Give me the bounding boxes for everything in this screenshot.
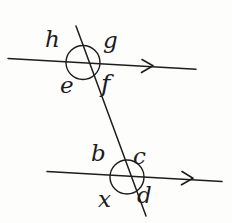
- bottom-arrowhead-icon: [182, 172, 194, 185]
- angle-label-e: e: [60, 74, 74, 97]
- geometry-diagram: h g e f b c x d: [0, 0, 232, 223]
- angle-label-d: d: [137, 184, 152, 207]
- angle-label-c: c: [133, 145, 146, 168]
- bottom-parallel-line: [47, 172, 222, 182]
- angle-label-f: f: [101, 71, 110, 96]
- transversal-line: [76, 26, 146, 216]
- angle-label-x: x: [98, 188, 111, 211]
- top-parallel-line: [8, 58, 196, 69]
- angle-label-b: b: [91, 142, 106, 165]
- angle-label-g: g: [103, 29, 118, 52]
- angle-label-h: h: [45, 28, 60, 51]
